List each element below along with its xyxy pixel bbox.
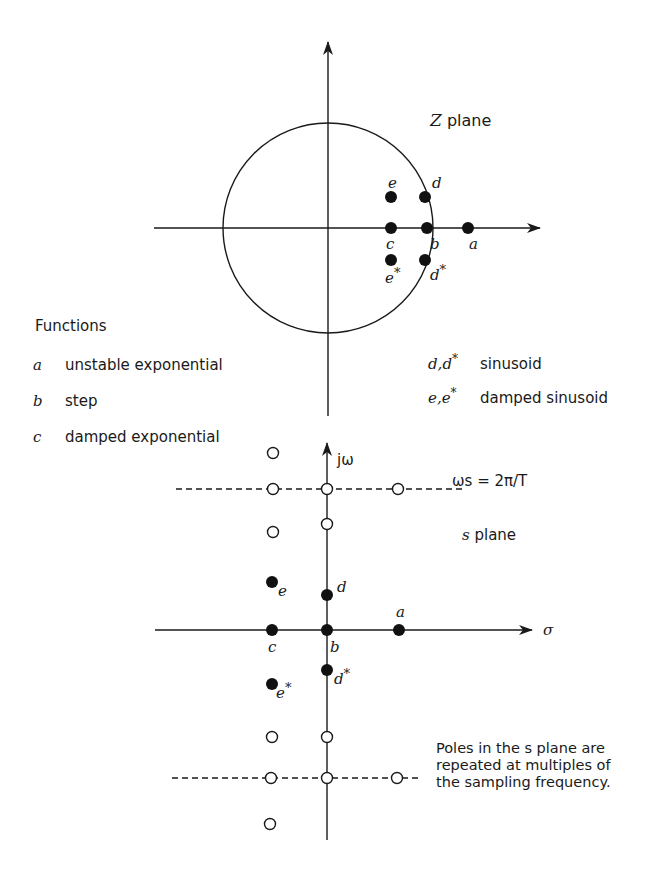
repeated-pole <box>268 527 279 538</box>
pole-label: c <box>268 638 277 656</box>
repeated-pole <box>267 732 278 743</box>
jw-axis-label: jω <box>336 451 354 469</box>
pole-d <box>321 589 333 601</box>
repeated-pole <box>322 484 333 495</box>
note-line: the sampling frequency. <box>436 774 611 790</box>
s-plane: edacbd*e* jω σ ωs = 2π/T s plane Poles i… <box>155 443 611 840</box>
z-title-rest: plane <box>442 111 491 130</box>
legend-left-items: aunstable exponentialbstepcdamped expone… <box>33 356 223 446</box>
pole-label: a <box>469 235 478 253</box>
s-poles: edacbd*e* <box>266 576 405 702</box>
repeated-pole <box>392 773 403 784</box>
pole-label: e* <box>385 265 401 287</box>
pole-label: d* <box>430 262 447 284</box>
legend-key: a <box>33 356 42 374</box>
legend-key: c <box>33 428 42 446</box>
pole-d-conj <box>321 664 333 676</box>
pole-c <box>266 624 278 636</box>
repeated-pole <box>393 484 404 495</box>
legend-desc: step <box>65 392 97 410</box>
pole-a <box>462 222 474 234</box>
z-plane-title: Z plane <box>429 110 491 130</box>
note-line: repeated at multiples of <box>436 757 611 773</box>
pole-label: b <box>330 638 340 656</box>
pole-label: d <box>337 578 347 596</box>
legend-key: d,d* <box>428 352 458 373</box>
repeated-pole <box>266 773 277 784</box>
pole-label: e* <box>276 680 292 702</box>
pole-label: e <box>388 174 397 192</box>
repeated-pole <box>265 819 276 830</box>
pole-label: c <box>386 235 395 253</box>
pole-label: d* <box>334 666 351 688</box>
pole-label: e <box>278 582 287 600</box>
repeated-pole <box>322 773 333 784</box>
legend-desc: damped exponential <box>65 428 220 446</box>
sigma-axis-label: σ <box>543 621 554 639</box>
repetition-note: Poles in the s plane arerepeated at mult… <box>436 740 611 790</box>
pole-d <box>419 191 431 203</box>
repeated-pole <box>268 448 279 459</box>
pole-label: b <box>430 235 440 253</box>
s-plane-title: s plane <box>462 526 516 544</box>
note-line: Poles in the s plane are <box>436 740 605 756</box>
legend-desc: unstable exponential <box>65 356 223 374</box>
pole-d-conj <box>419 254 431 266</box>
s-title-rest: plane <box>470 526 516 544</box>
legend-heading: Functions <box>35 317 107 335</box>
pole-e <box>266 576 278 588</box>
legend-right-items: d,d*sinusoide,e*damped sinusoid <box>428 352 608 407</box>
pole-c <box>385 222 397 234</box>
legend-key: b <box>33 392 43 410</box>
repeated-pole <box>268 484 279 495</box>
pole-label: d <box>432 174 442 192</box>
pole-a <box>393 624 405 636</box>
pole-label: a <box>396 603 405 621</box>
legend-desc: damped sinusoid <box>480 389 608 407</box>
legend-desc: sinusoid <box>480 355 542 373</box>
z-poles: edcbae*d* <box>385 174 478 287</box>
pole-e <box>385 191 397 203</box>
functions-legend: Functions aunstable exponentialbstepcdam… <box>33 317 608 446</box>
pole-b <box>321 624 333 636</box>
repeated-pole <box>322 519 333 530</box>
pole-mapping-diagram: edcbae*d* Z plane Functions aunstable ex… <box>0 0 659 869</box>
pole-b <box>421 222 433 234</box>
sampling-frequency-label: ωs = 2π/T <box>452 472 528 490</box>
sampling-frequency-lines <box>172 489 462 778</box>
legend-key: e,e* <box>428 386 457 407</box>
repeated-pole <box>322 732 333 743</box>
